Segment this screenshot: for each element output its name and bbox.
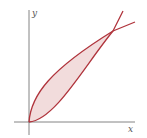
x-axis-label: x [128, 124, 133, 134]
area-between-curves-diagram: y x [0, 0, 147, 138]
shaded-region [29, 31, 113, 122]
y-axis-label: y [31, 8, 38, 18]
